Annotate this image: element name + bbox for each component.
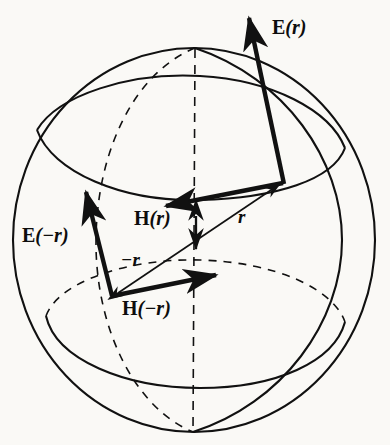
figure-container: E(r) H(r) E(−r) H(−r) r −r [0, 0, 390, 445]
H-minus-r-vector-line [112, 275, 216, 296]
label-E-r-arg: (r) [285, 16, 306, 38]
E-r-vector [249, 18, 284, 184]
label-H-r-arg: (r) [150, 207, 171, 229]
E-minus-r-vector-line [86, 192, 112, 296]
latitude-lower-back [46, 260, 345, 322]
label-H-r-symbol: H [134, 207, 150, 229]
E-r-vector-line [249, 18, 284, 184]
label-H-r: H(r) [134, 208, 171, 228]
latitude-upper [37, 76, 345, 201]
label-H-minus-r-symbol: H [122, 297, 138, 319]
label-r: r [238, 207, 245, 226]
label-minus-r: −r [121, 250, 140, 269]
label-H-minus-r: H(−r) [122, 298, 171, 318]
label-minus-r-text: −r [121, 249, 140, 270]
E-minus-r-vector [86, 192, 112, 296]
label-E-r: E(r) [272, 17, 306, 37]
label-E-minus-r-arg: (−r) [35, 224, 68, 246]
label-E-minus-r: E(−r) [22, 225, 69, 245]
H-minus-r-vector [112, 275, 216, 296]
latitude-upper-front [37, 130, 345, 200]
label-E-minus-r-symbol: E [22, 224, 35, 246]
label-r-text: r [238, 206, 245, 227]
sphere-vector-diagram [0, 0, 390, 445]
latitude-lower-front [46, 316, 345, 388]
label-H-minus-r-arg: (−r) [138, 297, 171, 319]
latitude-upper-back [37, 76, 345, 148]
label-E-r-symbol: E [272, 16, 285, 38]
